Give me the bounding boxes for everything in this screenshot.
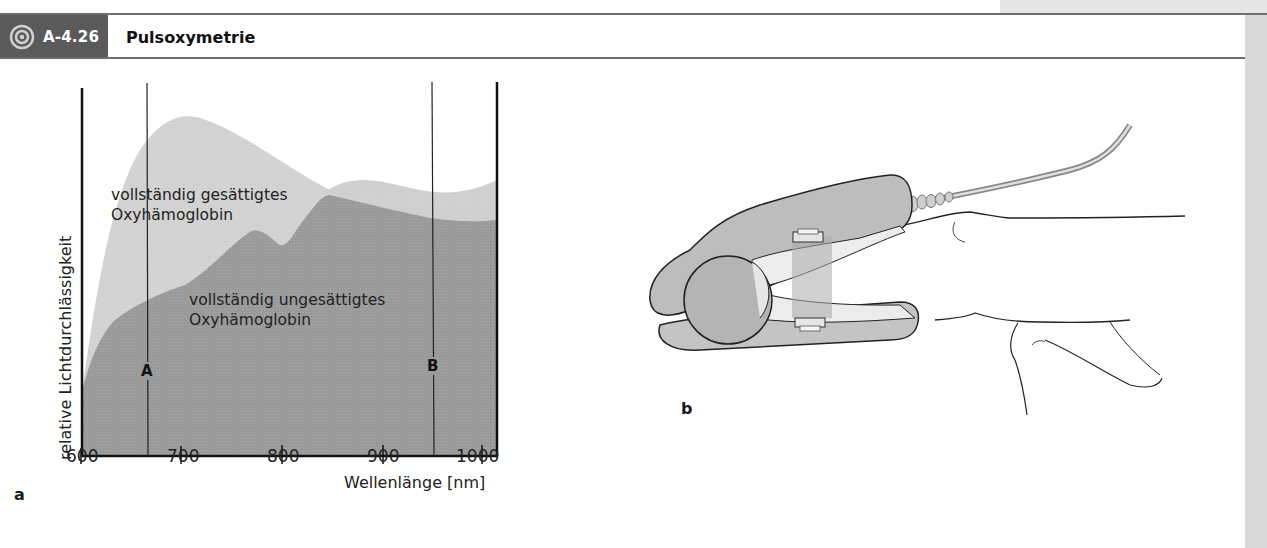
x-tick-label: 900 — [367, 446, 399, 466]
cable-strain-relief — [906, 192, 953, 212]
hand-outline — [1011, 323, 1027, 415]
figure-header: A-4.26 Pulsoxymetrie — [0, 15, 1245, 59]
x-axis-label: Wellenlänge [nm] — [344, 473, 485, 492]
saturated-label-line1: vollständig gesättigtes — [111, 186, 288, 204]
unsaturated-label-line1: vollständig ungesättigtes — [189, 291, 385, 309]
x-tick-label: 1000 — [456, 446, 499, 466]
figure-number-badge: A-4.26 — [0, 15, 108, 59]
saturated-label-line2: Oxyhämoglobin — [111, 206, 233, 224]
target-circle-icon — [9, 24, 35, 50]
x-tick-label: 700 — [167, 446, 199, 466]
figure-title: Pulsoxymetrie — [126, 15, 255, 59]
light-beam — [792, 236, 832, 318]
panel-a-chart: 600 700 800 900 1000 Wellenlänge [nm] re… — [0, 60, 560, 548]
pulse-oximeter-illustration — [600, 60, 1240, 480]
y-axis-label: relative Lichtdurchlässigkeit — [56, 236, 75, 460]
panel-label-a: a — [14, 485, 25, 504]
finger-outline-bottom — [935, 313, 1130, 322]
x-tick-label: 800 — [267, 446, 299, 466]
finger-outline-top — [900, 212, 1185, 226]
panel-b-illustration: b — [600, 60, 1240, 480]
header-rule-bottom — [0, 57, 1245, 59]
page-side-margin — [1245, 14, 1267, 548]
unsaturated-label-line2: Oxyhämoglobin — [189, 311, 311, 329]
marker-label-a: A — [141, 362, 153, 380]
marker-label-b: B — [427, 357, 438, 375]
figure-number: A-4.26 — [43, 28, 99, 46]
page-margin-band — [1000, 0, 1267, 14]
panel-label-b: b — [681, 399, 692, 418]
